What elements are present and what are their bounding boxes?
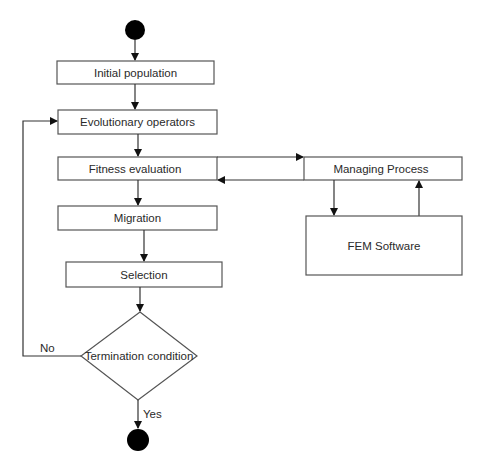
node-selection: Selection <box>66 262 222 287</box>
node-migration: Migration <box>58 206 217 230</box>
evolutionary-operators-label: Evolutionary operators <box>80 116 195 128</box>
fem-software-label: FEM Software <box>348 240 421 252</box>
edge-termination-no-loop <box>23 121 81 356</box>
edge-label-yes: Yes <box>143 408 162 420</box>
node-evolutionary-operators: Evolutionary operators <box>58 110 217 134</box>
migration-label: Migration <box>114 212 161 224</box>
node-managing-process: Managing Process <box>304 157 462 180</box>
end-node <box>127 429 149 451</box>
managing-process-label: Managing Process <box>333 163 428 175</box>
fitness-evaluation-label: Fitness evaluation <box>89 163 182 175</box>
initial-population-label: Initial population <box>94 67 177 79</box>
node-initial-population: Initial population <box>57 61 214 84</box>
start-node <box>125 20 145 40</box>
flowchart-diagram: Initial population Evolutionary operator… <box>0 0 483 471</box>
termination-condition-label: Termination condition <box>85 350 194 362</box>
edge-label-no: No <box>40 342 55 354</box>
node-termination-condition: Termination condition <box>81 312 197 400</box>
node-fem-software: FEM Software <box>306 216 462 275</box>
selection-label: Selection <box>120 269 167 281</box>
node-fitness-evaluation: Fitness evaluation <box>58 157 217 180</box>
